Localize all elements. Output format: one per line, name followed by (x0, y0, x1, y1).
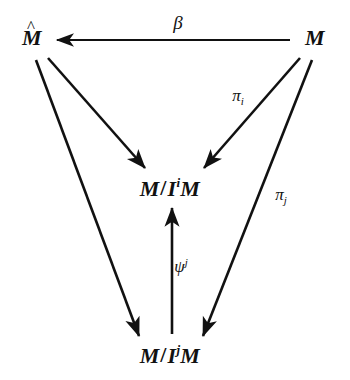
edge-pi-j (203, 60, 312, 336)
quotient-j-ideal: I (167, 343, 176, 368)
pi-i-subscript: i (241, 95, 244, 107)
quotient-i-ideal: I (167, 176, 176, 201)
psi-glyph: ψ (174, 257, 185, 276)
quotient-j-slash: / (160, 343, 168, 368)
quotient-i-suffix: M (180, 176, 200, 201)
quotient-i-prefix: M (140, 176, 160, 201)
node-quotient-j: M/IjM (140, 343, 200, 366)
commutative-diagram: ^M M M/IiM M/IjM β πi πj ψj (0, 0, 350, 380)
node-m-hat: ^M (22, 27, 42, 49)
quotient-j-suffix: M (180, 343, 200, 368)
quotient-j-prefix: M (140, 343, 160, 368)
edge-label-psi: ψj (174, 257, 188, 276)
node-quotient-i: M/IiM (140, 176, 200, 199)
pi-j-glyph: π (275, 185, 284, 204)
edge-pi-i (204, 58, 300, 168)
edge-label-pi-j: πj (275, 186, 287, 206)
edge-mhat-to-quotient-i (48, 58, 145, 168)
node-m-base: M (305, 25, 325, 50)
node-m: M (305, 27, 325, 49)
beta-glyph: β (173, 12, 182, 33)
m-hat-glyph: ^M (22, 27, 42, 49)
quotient-i-slash: / (160, 176, 168, 201)
pi-i-glyph: π (232, 86, 241, 105)
pi-j-subscript: j (284, 194, 287, 206)
edge-label-beta: β (173, 13, 182, 32)
circumflex-accent-icon: ^ (27, 18, 35, 35)
psi-superscript: j (185, 256, 188, 268)
edge-label-pi-i: πi (232, 87, 244, 107)
